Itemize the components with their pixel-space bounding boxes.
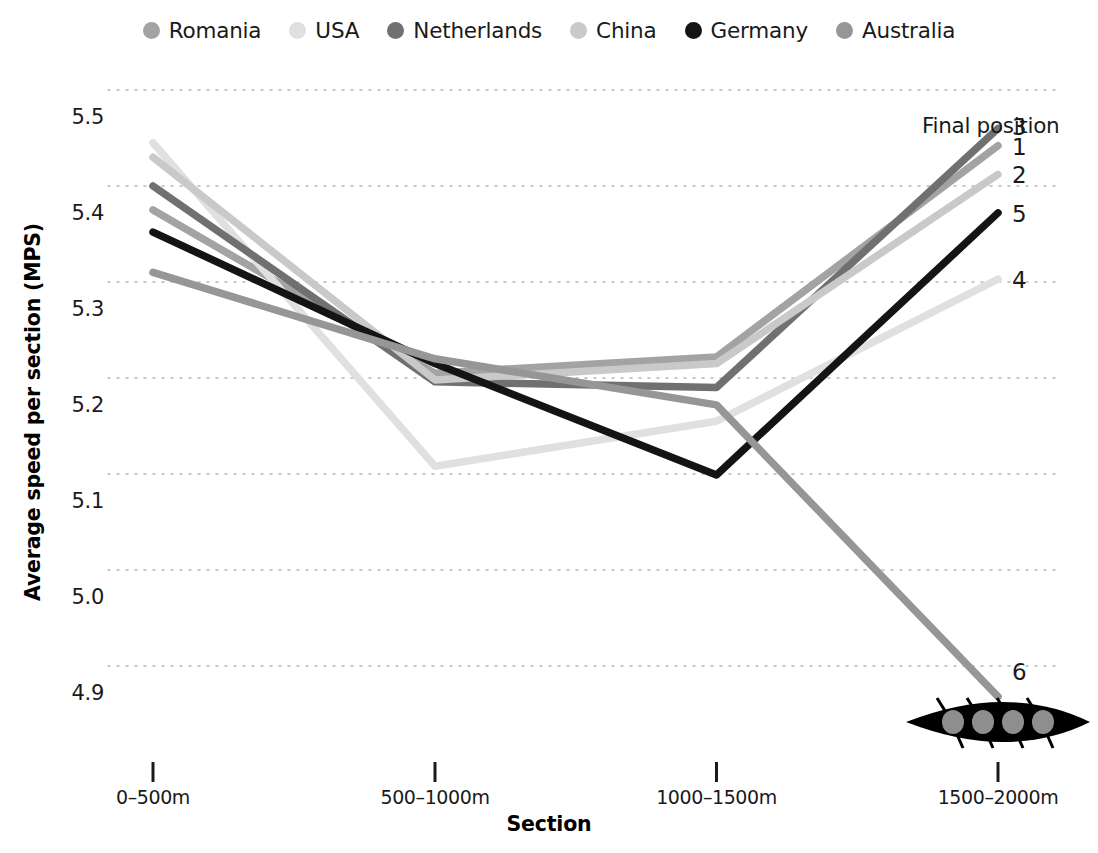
final-position-china: 2 — [1012, 162, 1026, 188]
final-position-caption: Final position — [922, 113, 1059, 138]
boat-rower — [972, 710, 994, 734]
x-tick-label: 0–500m — [43, 786, 263, 808]
boat-hull — [906, 702, 1090, 742]
y-axis-title: Average speed per section (MPS) — [21, 212, 45, 612]
series-line-australia[interactable] — [153, 272, 998, 696]
y-tick-label: 5.3 — [46, 297, 104, 321]
x-tick-label: 500–1000m — [325, 786, 545, 808]
x-tick-label: 1000–1500m — [607, 786, 827, 808]
boat-rower — [1032, 710, 1054, 734]
boat-rower — [1002, 710, 1024, 734]
final-position-germany: 5 — [1012, 201, 1026, 227]
x-tick-label: 1500–2000m — [888, 786, 1098, 808]
y-tick-label: 5.1 — [46, 489, 104, 513]
y-tick-label: 5.0 — [46, 585, 104, 609]
y-tick-label: 5.4 — [46, 201, 104, 225]
rowing-boat-icon — [906, 698, 1090, 748]
boat-rower — [942, 710, 964, 734]
x-axis-title: Section — [0, 812, 1098, 836]
final-position-australia: 6 — [1012, 659, 1026, 685]
final-position-usa: 4 — [1012, 267, 1026, 293]
y-tick-label: 5.2 — [46, 393, 104, 417]
x-tick-marks — [153, 762, 998, 782]
series-lines — [153, 128, 998, 696]
y-tick-label: 4.9 — [46, 681, 104, 705]
chart-page: RomaniaUSANetherlandsChinaGermanyAustral… — [0, 0, 1098, 853]
gridlines — [108, 90, 1062, 666]
plot-area: 5.55.45.35.25.15.04.9 0–500m500–1000m100… — [0, 0, 1098, 853]
y-tick-label: 5.5 — [46, 105, 104, 129]
